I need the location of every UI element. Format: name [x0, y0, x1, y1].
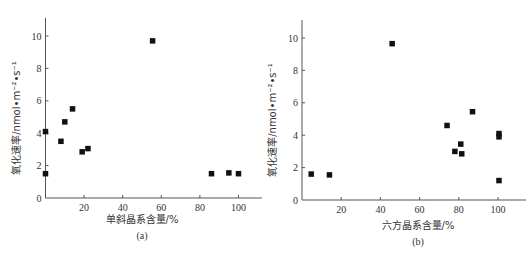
data-point	[496, 134, 502, 140]
data-point	[327, 172, 333, 178]
y-tick-label: 6	[293, 97, 298, 108]
x-tick-label: 60	[415, 204, 425, 215]
data-point	[85, 146, 91, 152]
y-axis-label-a: 氧化速率/nmol•m⁻²•s⁻¹	[10, 61, 22, 175]
x-tick-label: 40	[375, 204, 385, 215]
data-markers-b	[308, 41, 501, 183]
x-tick-label: 80	[454, 204, 464, 215]
data-point	[62, 119, 68, 125]
data-point	[389, 41, 395, 47]
x-tick-label: 100	[491, 204, 506, 215]
data-point	[70, 106, 76, 112]
data-point	[43, 129, 49, 135]
x-tick-label: 40	[118, 202, 128, 213]
panel-caption-b: (b)	[412, 236, 424, 248]
y-tick-label: 2	[37, 160, 42, 171]
panel-caption-a: (a)	[136, 230, 147, 242]
y-tick-label: 0	[37, 193, 42, 204]
data-point	[458, 141, 464, 147]
x-axis-label-a: 单斜晶系含量/%	[106, 213, 179, 225]
x-axis-label-b: 六方晶系含量/%	[382, 219, 455, 231]
scatter-panel-b: 024681020406080100 氧化速率/nmol•m⁻²•s⁻¹ 六方晶…	[266, 20, 526, 248]
data-point	[226, 170, 232, 176]
data-point	[209, 171, 215, 177]
y-tick-label: 4	[293, 130, 298, 141]
y-tick-label: 2	[293, 162, 298, 173]
y-tick-label: 10	[288, 33, 298, 44]
y-tick-label: 6	[37, 95, 42, 106]
y-tick-label: 8	[37, 63, 42, 74]
data-point	[452, 149, 458, 155]
x-tick-label: 80	[195, 202, 205, 213]
data-point	[58, 139, 64, 145]
y-tick-label: 4	[37, 128, 42, 139]
axes-b: 024681020406080100	[288, 20, 526, 215]
data-point	[459, 151, 465, 157]
x-tick-label: 20	[336, 204, 346, 215]
figure-canvas: 024681020406080100 氧化速率/nmol•m⁻²•s⁻¹ 单斜晶…	[0, 0, 532, 259]
data-point	[496, 178, 502, 184]
data-point	[444, 123, 450, 129]
x-tick-label: 20	[79, 202, 89, 213]
x-tick-label: 60	[156, 202, 166, 213]
data-point	[308, 171, 314, 177]
y-axis-label-b: 氧化速率/nmol•m⁻²•s⁻¹	[266, 63, 278, 177]
data-point	[43, 171, 49, 177]
data-markers-a	[43, 38, 242, 176]
y-tick-label: 8	[293, 65, 298, 76]
x-tick-label: 100	[231, 202, 246, 213]
data-point	[79, 149, 85, 155]
scatter-panel-a: 024681020406080100 氧化速率/nmol•m⁻²•s⁻¹ 单斜晶…	[10, 18, 262, 242]
data-point	[150, 38, 156, 44]
data-point	[236, 171, 242, 177]
axes-a: 024681020406080100	[32, 18, 263, 213]
data-point	[470, 109, 476, 115]
y-tick-label: 10	[32, 31, 42, 42]
y-tick-label: 0	[293, 195, 298, 206]
